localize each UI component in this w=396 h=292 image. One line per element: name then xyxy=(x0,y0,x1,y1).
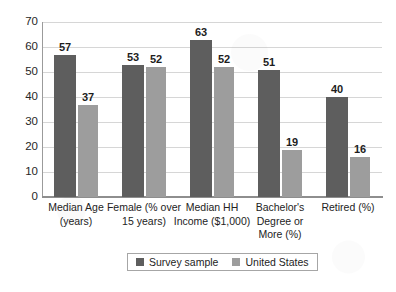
bar-united-states: 37 xyxy=(78,105,98,198)
bar-value-label: 63 xyxy=(195,27,207,38)
bar-united-states: 16 xyxy=(350,157,370,197)
bar-survey-sample: 53 xyxy=(122,65,144,198)
x-axis-category-label-line: Degree or xyxy=(240,215,320,229)
bar-survey-sample: 63 xyxy=(190,40,212,198)
legend-item-united-states: United States xyxy=(232,257,308,268)
legend-label-survey-sample: Survey sample xyxy=(149,257,218,268)
bar-value-label: 40 xyxy=(331,84,343,95)
bar-value-label: 52 xyxy=(150,54,162,65)
x-axis-category-label-line: Retired (%) xyxy=(308,201,388,215)
bar-group: 5119 xyxy=(246,22,314,197)
bar-united-states: 19 xyxy=(282,150,302,198)
bar-survey-sample: 51 xyxy=(258,70,280,198)
bar-united-states: 52 xyxy=(214,67,234,197)
bar-chart: 010203040506070 Survey sample United Sta… xyxy=(0,0,396,292)
bar-group: 5352 xyxy=(110,22,178,197)
chart-legend: Survey sample United States xyxy=(127,253,318,271)
bar-group: 5737 xyxy=(42,22,110,197)
y-axis-tick-label: 40 xyxy=(4,91,38,103)
bar-value-label: 51 xyxy=(263,57,275,68)
y-axis: 010203040506070 xyxy=(0,0,38,292)
legend-item-survey-sample: Survey sample xyxy=(136,257,218,268)
x-axis-category-label-line: More (%) xyxy=(240,228,320,242)
legend-label-united-states: United States xyxy=(245,257,308,268)
bar-value-label: 52 xyxy=(218,54,230,65)
y-axis-tick-label: 60 xyxy=(4,41,38,53)
y-axis-tick-label: 20 xyxy=(4,141,38,153)
bar-group: 4016 xyxy=(314,22,382,197)
y-axis-tick-label: 70 xyxy=(4,16,38,28)
bar-united-states: 52 xyxy=(146,67,166,197)
y-axis-tick-label: 0 xyxy=(4,191,38,203)
y-axis-tick-label: 10 xyxy=(4,166,38,178)
bar-value-label: 19 xyxy=(286,137,298,148)
legend-swatch-icon-survey-sample xyxy=(136,258,144,266)
bar-group: 6352 xyxy=(178,22,246,197)
y-axis-tick-label: 30 xyxy=(4,116,38,128)
bar-survey-sample: 40 xyxy=(326,97,348,197)
legend-swatch-icon-united-states xyxy=(232,258,240,266)
x-axis-category-label: Retired (%) xyxy=(308,201,388,215)
bar-value-label: 53 xyxy=(127,52,139,63)
bar-survey-sample: 57 xyxy=(54,55,76,198)
bar-value-label: 37 xyxy=(82,92,94,103)
bar-value-label: 16 xyxy=(354,144,366,155)
y-axis-tick-label: 50 xyxy=(4,66,38,78)
bar-value-label: 57 xyxy=(59,42,71,53)
